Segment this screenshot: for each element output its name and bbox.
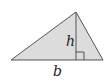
triangle-diagram: h b bbox=[0, 0, 110, 82]
height-label: h bbox=[66, 33, 75, 49]
triangle bbox=[11, 12, 103, 60]
base-label: b bbox=[53, 63, 62, 79]
